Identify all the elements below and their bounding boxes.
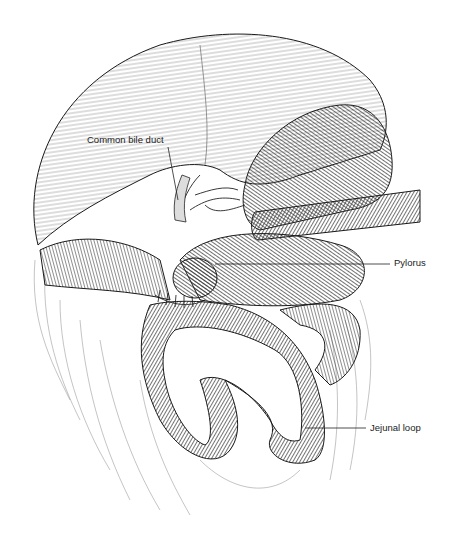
common-bile-duct: [174, 175, 190, 222]
illustration-drawing: [0, 0, 452, 540]
label-common-bile-duct: Common bile duct: [87, 135, 164, 145]
label-jejunal-loop: Jejunal loop: [370, 423, 421, 433]
label-pylorus: Pylorus: [394, 258, 426, 268]
transverse-colon: [40, 239, 170, 300]
pylorus: [173, 258, 217, 298]
jejunal-loop: [141, 301, 324, 463]
anatomy-illustration: Common bile duct Pylorus Jejunal loop: [0, 0, 452, 540]
